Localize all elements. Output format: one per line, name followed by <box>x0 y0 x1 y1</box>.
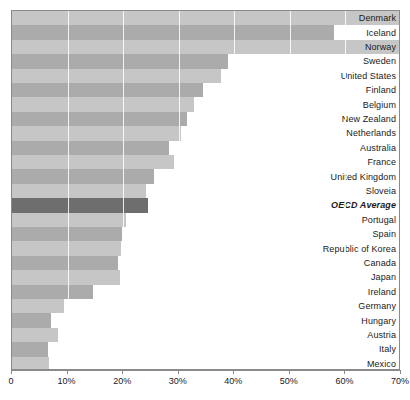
bar-row: Portugal <box>12 213 399 227</box>
bar-label: New Zealand <box>342 112 396 126</box>
bar <box>12 198 148 212</box>
bar <box>12 97 194 111</box>
bar <box>12 54 228 68</box>
bar-label: Denmark <box>359 11 396 25</box>
bar-label: Hungary <box>361 313 396 327</box>
x-axis-tick <box>11 370 12 374</box>
row-empty-area <box>126 213 399 227</box>
bar <box>12 357 49 370</box>
bar <box>12 299 64 313</box>
bar-row: OECD Average <box>12 198 399 212</box>
bar-label: Austria <box>367 328 396 342</box>
bar-label: Belgium <box>363 97 396 111</box>
bar-row: United States <box>12 69 399 83</box>
bar <box>12 256 118 270</box>
plot-area: DenmarkIcelandNorwaySwedenUnited StatesF… <box>11 10 400 370</box>
bar <box>12 40 400 54</box>
bar-label: Portugal <box>362 213 396 227</box>
bar <box>12 184 146 198</box>
x-axis-tick-label: 50% <box>280 376 298 386</box>
bar <box>12 270 120 284</box>
bar-label: Norway <box>365 40 396 54</box>
bar <box>12 69 221 83</box>
row-empty-area <box>122 227 399 241</box>
x-axis-tick <box>400 370 401 374</box>
bar-label: Republic of Korea <box>323 241 396 255</box>
bar-label: Spain <box>372 227 396 241</box>
bar-label: United States <box>341 69 396 83</box>
x-axis-tick <box>178 370 179 374</box>
x-axis-tick <box>289 370 290 374</box>
x-axis: 010%20%30%40%50%60%70% <box>11 370 400 400</box>
row-empty-area <box>120 270 399 284</box>
bar-row: Germany <box>12 299 399 313</box>
bar-label: Germany <box>358 299 396 313</box>
row-empty-area <box>58 328 399 342</box>
x-axis-tick-label: 30% <box>169 376 187 386</box>
bar-label: Canada <box>364 256 396 270</box>
bar <box>12 155 174 169</box>
bar-label: Netherlands <box>346 126 396 140</box>
bar-rows-container: DenmarkIcelandNorwaySwedenUnited StatesF… <box>12 11 399 369</box>
bar-row: Netherlands <box>12 126 399 140</box>
row-empty-area <box>48 342 399 356</box>
bar-row: Canada <box>12 256 399 270</box>
bar-label: Ireland <box>368 285 396 299</box>
row-empty-area <box>174 155 399 169</box>
bar <box>12 25 334 39</box>
bar <box>12 241 121 255</box>
bar-label: Finland <box>366 83 396 97</box>
bar-label: Mexico <box>367 357 396 370</box>
row-empty-area <box>118 256 399 270</box>
bar <box>12 285 93 299</box>
bar <box>12 126 181 140</box>
bar-row: Australia <box>12 141 399 155</box>
bar <box>12 11 400 25</box>
bar <box>12 313 51 327</box>
bar-label: Sweden <box>363 54 396 68</box>
bar-row: Hungary <box>12 313 399 327</box>
bar-label: Australia <box>360 141 396 155</box>
bar <box>12 169 154 183</box>
bar-label: Sloveia <box>366 184 396 198</box>
bar-row: Mexico <box>12 357 399 370</box>
bar-row: Iceland <box>12 25 399 39</box>
bar-row: Japan <box>12 270 399 284</box>
row-empty-area <box>64 299 399 313</box>
bar <box>12 141 169 155</box>
bar <box>12 112 187 126</box>
bar-row: France <box>12 155 399 169</box>
x-axis-tick-label: 10% <box>58 376 76 386</box>
bar-row: Ireland <box>12 285 399 299</box>
bar <box>12 342 48 356</box>
bar <box>12 213 126 227</box>
bar-row: Austria <box>12 328 399 342</box>
bar-label: United Kingdom <box>331 169 396 183</box>
bar-row: Sweden <box>12 54 399 68</box>
x-axis-tick <box>233 370 234 374</box>
x-axis-tick-label: 60% <box>335 376 353 386</box>
x-axis-line <box>11 370 400 371</box>
bar <box>12 83 203 97</box>
bar-chart: DenmarkIcelandNorwaySwedenUnited StatesF… <box>0 0 410 400</box>
x-axis-tick-label: 0 <box>8 376 13 386</box>
bar-row: New Zealand <box>12 112 399 126</box>
x-axis-tick-label: 70% <box>391 376 409 386</box>
x-axis-tick <box>67 370 68 374</box>
bar-label: Japan <box>371 270 396 284</box>
row-empty-area <box>93 285 399 299</box>
x-axis-tick <box>344 370 345 374</box>
bar-row: Italy <box>12 342 399 356</box>
bar-row: Denmark <box>12 11 399 25</box>
bar-row: United Kingdom <box>12 169 399 183</box>
bar-row: Spain <box>12 227 399 241</box>
x-axis-tick <box>122 370 123 374</box>
row-empty-area <box>49 357 399 370</box>
bar <box>12 227 122 241</box>
bar <box>12 328 58 342</box>
x-axis-tick-label: 20% <box>113 376 131 386</box>
bar-row: Belgium <box>12 97 399 111</box>
bar-row: Norway <box>12 40 399 54</box>
bar-label: Italy <box>379 342 396 356</box>
row-empty-area <box>146 184 399 198</box>
